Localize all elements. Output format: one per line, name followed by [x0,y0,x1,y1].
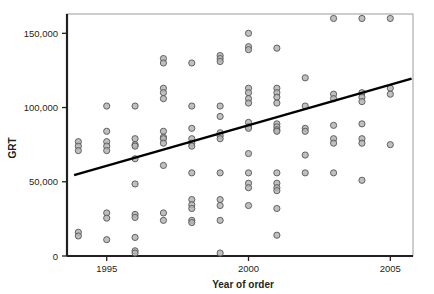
data-point [359,177,365,183]
data-point [330,170,336,176]
data-point [245,150,251,156]
data-point [387,91,393,97]
data-point [245,170,251,176]
data-point [189,205,195,211]
data-point [359,99,365,105]
data-point [274,100,280,106]
data-point [387,142,393,148]
data-point [245,100,251,106]
data-point [330,140,336,146]
data-point [330,15,336,21]
data-point [217,202,223,208]
data-point [274,94,280,100]
data-point [132,143,138,149]
data-point [274,45,280,51]
data-point [160,96,166,102]
data-point [217,196,223,202]
data-point [104,147,110,153]
data-point [387,15,393,21]
data-point [160,210,166,216]
axes-frame [67,14,413,256]
data-point [245,47,251,53]
scatter-points-group [75,15,393,256]
data-point [189,143,195,149]
data-point [274,188,280,194]
data-point [189,220,195,226]
data-point [160,90,166,96]
data-point [217,250,223,256]
data-point [189,125,195,131]
data-point [104,237,110,243]
data-point [189,170,195,176]
data-point [75,147,81,153]
x-tick-label: 2000 [238,263,259,274]
data-point [160,140,166,146]
data-point [104,103,110,109]
data-point [104,215,110,221]
chart-canvas: 050,000100,000150,000 199520002005 GRT Y… [0,0,434,294]
data-point [132,136,138,142]
y-axis-ticks: 050,000100,000150,000 [24,28,67,262]
data-point [330,122,336,128]
data-point [104,128,110,134]
data-point [132,181,138,187]
y-tick-label: 100,000 [24,102,58,113]
data-point [359,15,365,21]
data-point [132,234,138,240]
y-tick-label: 150,000 [24,28,58,39]
data-point [245,90,251,96]
data-point [274,170,280,176]
data-point [217,58,223,64]
data-point [160,60,166,66]
y-tick-label: 50,000 [29,176,58,187]
data-point [302,152,308,158]
data-point [274,128,280,134]
y-tick-label: 0 [53,251,58,262]
x-axis-title: Year of order [212,279,274,290]
data-point [160,162,166,168]
data-point [217,136,223,142]
data-point [245,185,251,191]
data-point [75,233,81,239]
data-point [359,140,365,146]
data-point [302,128,308,134]
data-point [274,205,280,211]
data-point [189,103,195,109]
data-point [217,170,223,176]
data-point [217,103,223,109]
data-point [189,60,195,66]
data-point [132,250,138,256]
data-point [160,128,166,134]
data-point [274,232,280,238]
y-axis-title: GRT [7,137,18,158]
data-point [217,217,223,223]
data-point [245,202,251,208]
data-point [217,113,223,119]
data-point [302,75,308,81]
x-tick-label: 2005 [380,263,401,274]
data-point [359,121,365,127]
data-point [132,103,138,109]
x-axis-ticks: 199520002005 [96,256,401,274]
data-point [160,217,166,223]
scatter-plot-figure: 050,000100,000150,000 199520002005 GRT Y… [0,0,434,294]
x-tick-label: 1995 [96,263,117,274]
data-point [302,170,308,176]
data-point [245,30,251,36]
data-point [132,214,138,220]
